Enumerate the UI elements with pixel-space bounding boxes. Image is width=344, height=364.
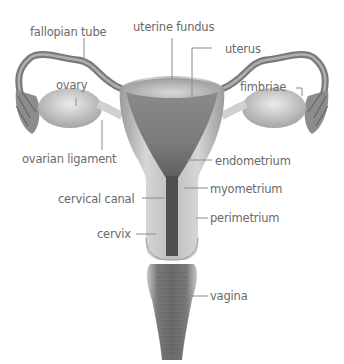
fimbriae-left: [16, 90, 40, 134]
label-perimetrium: perimetrium: [210, 211, 279, 225]
label-ovary: ovary: [56, 78, 87, 92]
label-cervical-canal: cervical canal: [58, 192, 134, 206]
label-vagina: vagina: [210, 289, 247, 303]
label-uterus: uterus: [225, 42, 261, 56]
label-fimbriae: fimbriae: [240, 80, 286, 94]
cervical-canal-shape: [166, 176, 178, 256]
label-endometrium: endometrium: [215, 154, 291, 168]
ovary-right: [242, 88, 306, 128]
ovary-left: [38, 88, 102, 128]
label-cervix: cervix: [97, 227, 131, 241]
uterus-anatomy-diagram: [0, 0, 344, 364]
label-ovarian-ligament: ovarian ligament: [22, 152, 116, 166]
fimbriae-right: [305, 90, 329, 134]
label-fallopian-tube: fallopian tube: [30, 25, 106, 39]
label-uterine-fundus: uterine fundus: [133, 20, 214, 34]
label-myometrium: myometrium: [210, 182, 282, 196]
